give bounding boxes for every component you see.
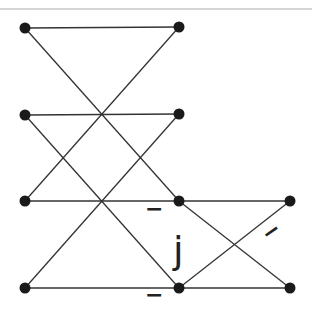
node-a1 — [20, 110, 31, 121]
node-b3 — [174, 283, 185, 294]
label-minus-diagonal: − — [256, 216, 285, 247]
node-c2 — [285, 196, 296, 207]
node-b2 — [174, 196, 185, 207]
node-c3 — [285, 283, 296, 294]
node-a2 — [20, 196, 31, 207]
nodes — [20, 22, 296, 294]
label-minus-upper: − — [145, 196, 163, 221]
edges — [25, 27, 290, 288]
label-j: j — [172, 228, 184, 272]
butterfly-diagram: − j − − — [0, 0, 312, 313]
node-a3 — [20, 283, 31, 294]
label-minus-lower: − — [145, 282, 163, 307]
edge-a0-b0 — [25, 27, 179, 28]
node-a0 — [20, 23, 31, 34]
node-b1 — [174, 109, 185, 120]
node-b0 — [174, 22, 185, 33]
